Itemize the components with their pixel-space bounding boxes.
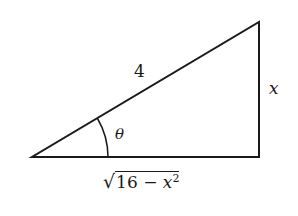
opposite-side-label: x [269,80,279,97]
radicand-constant: 16 − [116,172,163,192]
triangle-outline [32,22,259,157]
right-triangle-diagram: 4 x θ √ 16 − x2 [0,0,298,216]
adjacent-side-label: √ 16 − x2 [103,171,179,191]
hypotenuse-label: 4 [134,63,145,80]
angle-arc [98,119,109,158]
angle-theta-label: θ [115,127,124,142]
radicand-exponent: 2 [172,172,179,185]
radicand-variable: x [163,172,173,192]
square-root-icon: √ [103,172,115,191]
radicand: 16 − x2 [115,171,179,191]
